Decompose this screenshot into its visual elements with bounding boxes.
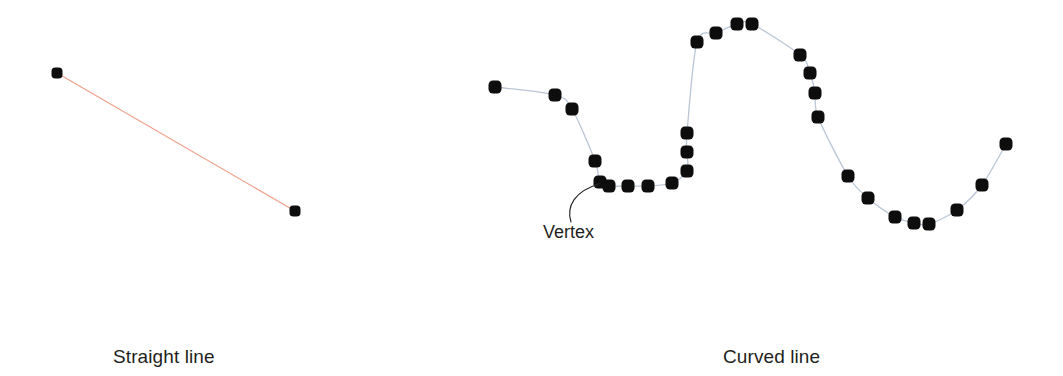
curved-line-vertex-19[interactable] — [812, 111, 825, 124]
curved-line-vertex-12[interactable] — [691, 36, 704, 49]
curved-line-vertex-24[interactable] — [923, 218, 936, 231]
straight-line-vertex-1[interactable] — [290, 206, 301, 217]
curved-line-vertex-5[interactable] — [603, 180, 616, 193]
curved-line-vertex-25[interactable] — [951, 204, 964, 217]
caption-straight-line: Straight line — [113, 346, 215, 368]
curved-line-vertex-8[interactable] — [666, 177, 679, 190]
curved-line-vertex-9[interactable] — [681, 165, 694, 178]
curved-line-vertex-10[interactable] — [681, 146, 694, 159]
curved-line-vertex-7[interactable] — [642, 180, 655, 193]
curved-line-vertex-17[interactable] — [804, 67, 817, 80]
curved-line-vertex-6[interactable] — [622, 180, 635, 193]
curved-line-stroke — [495, 22, 1006, 225]
curved-line-vertex-2[interactable] — [566, 103, 579, 116]
straight-line-shape — [52, 68, 301, 217]
straight-line-vertex-0[interactable] — [52, 68, 63, 79]
curved-line-vertex-0[interactable] — [489, 81, 502, 94]
straight-line-stroke — [57, 73, 295, 211]
caption-curved-line: Curved line — [723, 346, 820, 368]
curved-line-vertex-21[interactable] — [862, 192, 875, 205]
curved-line-vertex-11[interactable] — [681, 127, 694, 140]
curved-line-vertex-26[interactable] — [976, 179, 989, 192]
curved-line-vertex-27[interactable] — [1000, 138, 1013, 151]
curved-line-vertex-16[interactable] — [794, 49, 807, 62]
curved-line-vertex-1[interactable] — [549, 89, 562, 102]
diagram-canvas: Straight line Curved line Vertex — [0, 0, 1063, 376]
curved-line-vertex-14[interactable] — [731, 18, 744, 31]
curved-line-vertex-3[interactable] — [589, 155, 602, 168]
curved-line-vertex-13[interactable] — [710, 27, 723, 40]
curved-line-vertex-15[interactable] — [746, 18, 759, 31]
curved-line-vertex-22[interactable] — [889, 211, 902, 224]
curved-line-shape — [489, 18, 1013, 231]
line-types-illustration — [0, 0, 1063, 376]
curved-line-vertex-23[interactable] — [908, 217, 921, 230]
curved-line-vertex-18[interactable] — [809, 87, 822, 100]
vertex-leader-line — [570, 184, 599, 222]
vertex-annotation-leader — [570, 183, 601, 222]
curved-line-vertex-20[interactable] — [842, 170, 855, 183]
vertex-label: Vertex — [543, 222, 594, 243]
